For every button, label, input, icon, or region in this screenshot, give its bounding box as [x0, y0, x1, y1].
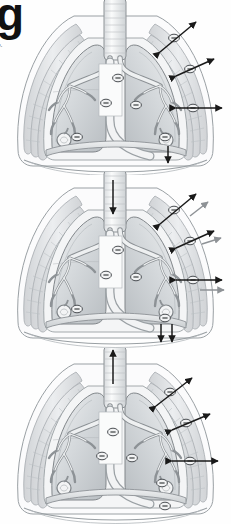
pressure-marker: [160, 502, 171, 510]
pressure-marker: [157, 479, 168, 487]
pressure-marker: [108, 428, 119, 436]
panel-exhalation: [0, 348, 231, 524]
pressure-marker: [113, 246, 124, 254]
panel-inhalation: [0, 172, 231, 348]
pressure-marker: [72, 305, 83, 313]
pressure-marker: [160, 314, 171, 322]
pressure-marker: [131, 101, 142, 109]
pressure-marker: [97, 452, 108, 460]
pressure-marker: [127, 454, 138, 462]
pressure-marker: [160, 133, 171, 141]
pressure-marker: [101, 271, 112, 279]
thorax-illustration-rest: [18, 0, 214, 175]
pressure-marker: [72, 133, 83, 141]
figure-page: g e.: [0, 0, 231, 524]
pressure-marker: [101, 99, 112, 107]
pressure-marker: [131, 273, 142, 281]
pressure-marker: [113, 74, 124, 82]
thorax-illustration-inhalation: [18, 172, 214, 348]
panel-rest: [0, 0, 231, 175]
